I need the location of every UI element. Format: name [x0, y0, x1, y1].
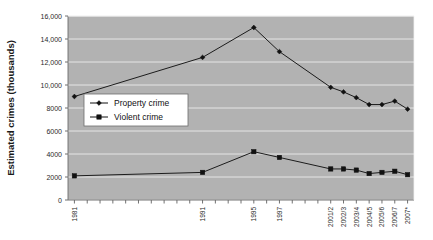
x-tick-label-1997: 1997 — [276, 207, 283, 222]
y-tick-label-6: 12,000 — [41, 59, 63, 66]
data-point-violent-crime-10 — [405, 173, 409, 177]
legend-marker-square — [97, 115, 101, 119]
data-point-violent-crime-7 — [367, 171, 371, 175]
x-tick-label-2007: 2007* — [404, 207, 411, 224]
data-point-violent-crime-4 — [329, 167, 333, 171]
data-point-violent-crime-0 — [72, 174, 76, 178]
y-tick-label-2: 4000 — [46, 151, 62, 158]
data-point-violent-crime-5 — [341, 167, 345, 171]
y-tick-label-3: 6000 — [46, 128, 62, 135]
x-tick-label-1991: 1991 — [199, 207, 206, 222]
legend-label-0: Property crime — [114, 98, 170, 108]
crime-line-chart: 0200040006000800010,00012,00014,00016,00… — [0, 0, 433, 240]
chart-canvas: 0200040006000800010,00012,00014,00016,00… — [0, 0, 433, 240]
data-point-violent-crime-6 — [354, 168, 358, 172]
y-tick-label-7: 14,000 — [41, 36, 63, 43]
legend-label-1: Violent crime — [114, 112, 163, 122]
x-tick-label-1981: 1981 — [71, 207, 78, 222]
x-tick-label-1995: 1995 — [250, 207, 257, 222]
x-tick-label-20067: 2006/7 — [391, 207, 398, 227]
x-tick-label-20045: 2004/5 — [366, 207, 373, 227]
chart-legend: Property crimeViolent crime — [84, 94, 188, 126]
data-point-violent-crime-9 — [393, 169, 397, 173]
data-point-violent-crime-2 — [252, 150, 256, 154]
x-tick-label-20012: 2001/2 — [327, 207, 334, 227]
x-tick-label-20034: 2003/4 — [353, 207, 360, 227]
y-axis-title-text: Estimated crimes (thousands) — [5, 40, 16, 176]
y-axis-title: Estimated crimes (thousands) — [5, 40, 16, 176]
y-tick-label-0: 0 — [58, 197, 62, 204]
data-point-violent-crime-8 — [380, 170, 384, 174]
y-tick-label-8: 16,000 — [41, 13, 63, 20]
y-tick-label-4: 8000 — [46, 105, 62, 112]
y-tick-label-5: 10,000 — [41, 82, 63, 89]
x-tick-label-20056: 2005/6 — [378, 207, 385, 227]
data-point-violent-crime-1 — [200, 170, 204, 174]
y-tick-label-1: 2000 — [46, 174, 62, 181]
data-point-violent-crime-3 — [277, 155, 281, 159]
x-tick-label-20023: 2002/3 — [340, 207, 347, 227]
